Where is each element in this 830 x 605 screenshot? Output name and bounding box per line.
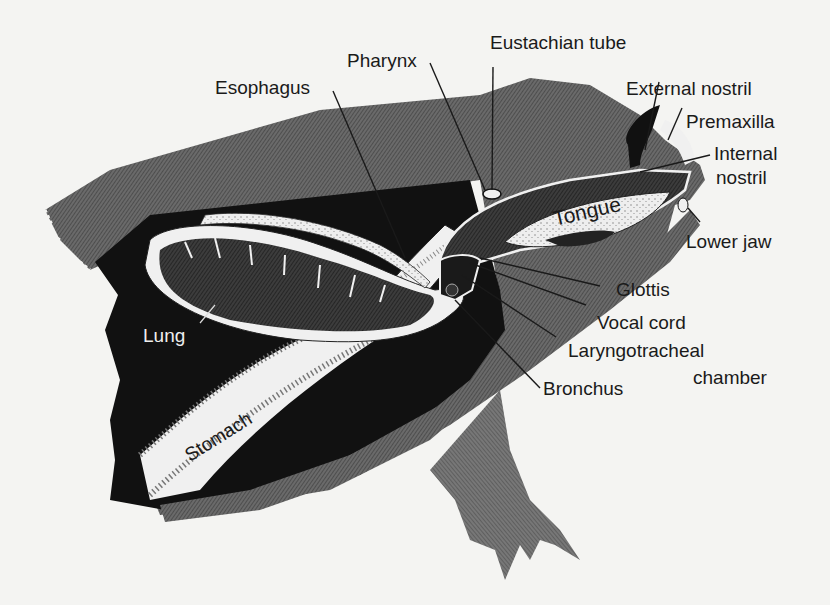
label-external-nostril: External nostril	[626, 78, 752, 99]
label-laryngotracheal-line2: chamber	[693, 367, 768, 388]
label-vocal-cord: Vocal cord	[597, 312, 686, 333]
label-eustachian-tube: Eustachian tube	[490, 32, 626, 53]
label-premaxilla: Premaxilla	[686, 111, 775, 132]
label-internal-nostril-line1: Internal	[714, 143, 777, 164]
label-glottis: Glottis	[616, 279, 670, 300]
label-internal-nostril-line2: nostril	[716, 167, 767, 188]
label-esophagus: Esophagus	[215, 77, 310, 98]
label-bronchus: Bronchus	[543, 378, 623, 399]
label-laryngotracheal-line1: Laryngotracheal	[568, 340, 704, 361]
label-lung: Lung	[143, 325, 185, 346]
label-pharynx: Pharynx	[347, 50, 417, 71]
label-lower-jaw: Lower jaw	[686, 231, 772, 252]
frog-anatomy-diagram: Esophagus Pharynx Eustachian tube Extern…	[0, 0, 830, 605]
